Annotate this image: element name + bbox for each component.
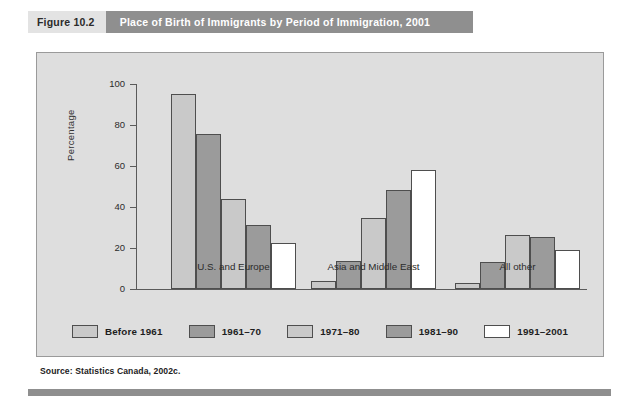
- bar-group: [311, 84, 436, 289]
- legend-item[interactable]: 1961–70: [189, 325, 262, 338]
- bar: [246, 225, 271, 289]
- figure-panel: Percentage 020406080100 U.S. and EuropeA…: [36, 52, 604, 357]
- legend-item[interactable]: 1981–90: [386, 325, 459, 338]
- legend-item[interactable]: Before 1961: [72, 325, 163, 338]
- y-axis-tick: [130, 289, 136, 290]
- legend-label: 1971–80: [320, 326, 360, 337]
- bar: [221, 199, 246, 289]
- bar: [455, 283, 480, 289]
- legend-swatch: [386, 325, 412, 338]
- legend-swatch: [189, 325, 215, 338]
- legend-item[interactable]: 1991–2001: [484, 325, 568, 338]
- legend-label: 1981–90: [419, 326, 459, 337]
- y-axis-tick: [130, 125, 136, 126]
- plot-area: [137, 84, 587, 289]
- chart-legend: Before 19611961–701971–801981–901991–200…: [37, 325, 603, 338]
- y-axis-title: Percentage: [65, 109, 76, 161]
- legend-item[interactable]: 1971–80: [287, 325, 360, 338]
- bar: [361, 218, 386, 289]
- y-axis-tick-label: 20: [89, 243, 125, 253]
- figure-header: Figure 10.2 Place of Birth of Immigrants…: [28, 11, 473, 33]
- legend-label: Before 1961: [105, 326, 163, 337]
- y-axis-tick: [130, 166, 136, 167]
- y-axis-tick-label: 40: [89, 202, 125, 212]
- legend-swatch: [484, 325, 510, 338]
- legend-label: 1991–2001: [517, 326, 568, 337]
- y-axis-tick: [130, 207, 136, 208]
- figure-title: Place of Birth of Immigrants by Period o…: [106, 11, 473, 33]
- legend-swatch: [287, 325, 313, 338]
- bar: [171, 94, 196, 289]
- bar-chart: Percentage 020406080100 U.S. and EuropeA…: [37, 53, 603, 356]
- bar: [311, 281, 336, 289]
- bar-group: [171, 84, 296, 289]
- y-axis-tick: [130, 248, 136, 249]
- source-note: Source: Statistics Canada, 2002c.: [40, 366, 180, 376]
- bar-group: [455, 84, 580, 289]
- y-axis-tick-label: 100: [89, 79, 125, 89]
- legend-label: 1961–70: [222, 326, 262, 337]
- y-axis-tick-label: 60: [89, 161, 125, 171]
- x-axis-line: [136, 289, 587, 290]
- y-axis-tick: [130, 84, 136, 85]
- figure-number: Figure 10.2: [28, 11, 106, 33]
- x-axis-label: All other: [425, 261, 610, 272]
- legend-swatch: [72, 325, 98, 338]
- bottom-rule: [28, 389, 611, 396]
- y-axis-tick-label: 80: [89, 120, 125, 130]
- y-axis-tick-label: 0: [89, 284, 125, 294]
- bar: [386, 190, 411, 289]
